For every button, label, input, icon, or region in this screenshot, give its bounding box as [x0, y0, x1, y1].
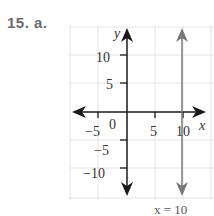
x-tick-label-5: 5 — [150, 124, 157, 139]
y-tick-label-5: 5 — [106, 77, 113, 92]
y-axis-label: y — [112, 26, 121, 41]
y-tick-label-10: 10 — [96, 50, 110, 65]
x-axis-label: x — [198, 118, 206, 133]
origin-label: 0 — [109, 117, 116, 132]
y-tick-label-neg10: −10 — [83, 166, 105, 181]
x-tick-label-10: 10 — [176, 124, 190, 139]
line-equation-label: x = 10 — [154, 202, 187, 216]
y-tick-label-neg5: −5 — [94, 143, 109, 158]
x-axis — [72, 106, 206, 118]
x-tick-label-neg5: −5 — [85, 124, 100, 139]
coordinate-plane: y x 10 5 0 −5 5 10 −5 −10 x = 10 — [0, 0, 214, 216]
